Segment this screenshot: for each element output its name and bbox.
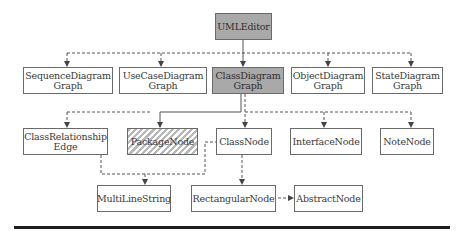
- edge-classdiagram-packagenode: [160, 94, 241, 127]
- node-class-node: ClassNode: [216, 128, 272, 155]
- node-label-line1: ClassRelationship: [24, 132, 107, 142]
- node-note-node: NoteNode: [380, 128, 434, 155]
- node-label-line2: Graph: [314, 81, 343, 91]
- node-label-line1: ClassDiagram: [216, 71, 281, 81]
- bottom-rule-divider: [14, 226, 450, 229]
- node-abstract-node: AbstractNode: [294, 185, 363, 212]
- node-label: RectangularNode: [193, 194, 275, 204]
- node-label: UMLEditor: [217, 22, 269, 32]
- node-rectangular-node: RectangularNode: [191, 185, 276, 212]
- node-object-diagram-graph: ObjectDiagram Graph: [291, 67, 365, 94]
- node-label: AbstractNode: [296, 194, 360, 204]
- node-label-line1: StateDiagram: [375, 71, 440, 81]
- node-label-line2: Edge: [54, 142, 78, 152]
- node-label-line2: Graph: [54, 81, 83, 91]
- node-label: InterfaceNode: [292, 137, 359, 147]
- node-sequence-diagram-graph: SequenceDiagram Graph: [23, 67, 113, 94]
- node-class-diagram-graph: ClassDiagram Graph: [212, 67, 284, 94]
- node-uml-editor: UMLEditor: [215, 13, 272, 40]
- node-label: NoteNode: [383, 137, 431, 147]
- node-label: ClassNode: [219, 137, 269, 147]
- node-label-line1: SequenceDiagram: [25, 71, 111, 81]
- node-label: PackageNode: [131, 137, 195, 147]
- node-use-case-diagram-graph: UseCaseDiagram Graph: [119, 67, 207, 94]
- node-interface-node: InterfaceNode: [290, 128, 362, 155]
- node-package-node: PackageNode: [127, 128, 198, 155]
- uml-class-diagram: UMLEditor SequenceDiagram Graph UseCaseD…: [0, 0, 463, 231]
- node-state-diagram-graph: StateDiagram Graph: [372, 67, 443, 94]
- node-label-line2: Graph: [149, 81, 178, 91]
- node-label-line1: ObjectDiagram: [293, 71, 364, 81]
- node-multi-line-string: MultiLineString: [97, 185, 171, 212]
- node-label-line2: Graph: [393, 81, 422, 91]
- node-class-relationship-edge: ClassRelationship Edge: [23, 128, 108, 155]
- node-label: MultiLineString: [97, 194, 171, 204]
- node-label-line2: Graph: [234, 81, 263, 91]
- node-label-line1: UseCaseDiagram: [123, 71, 204, 81]
